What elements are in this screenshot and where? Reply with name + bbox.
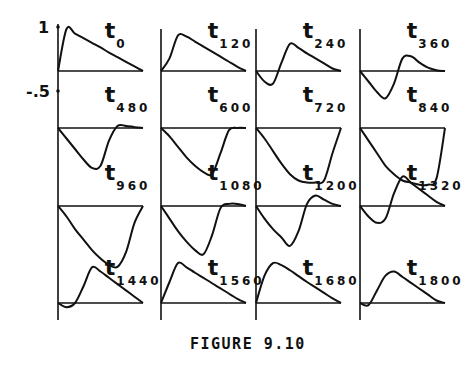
time-subscript: 1560 bbox=[219, 274, 264, 288]
time-subscript: 1680 bbox=[314, 274, 359, 288]
time-symbol: t bbox=[407, 18, 418, 43]
time-symbol: t bbox=[303, 255, 314, 280]
time-symbol: t bbox=[303, 18, 314, 43]
time-subscript: 1440 bbox=[116, 274, 161, 288]
time-symbol: t bbox=[303, 160, 314, 185]
panel-time-label: t240 bbox=[303, 18, 348, 43]
time-subscript: 960 bbox=[116, 179, 150, 193]
panel-time-label: t1440 bbox=[105, 255, 161, 280]
panel-time-label: t360 bbox=[407, 18, 452, 43]
y-tick-label-mid: -.5 bbox=[26, 82, 50, 101]
time-subscript: 720 bbox=[314, 101, 348, 115]
time-subscript: 120 bbox=[219, 37, 253, 51]
time-symbol: t bbox=[105, 18, 116, 43]
time-subscript: 1800 bbox=[418, 274, 463, 288]
panel-time-label: t1800 bbox=[407, 255, 463, 280]
time-subscript: 360 bbox=[418, 37, 452, 51]
panel-time-label: t840 bbox=[407, 82, 452, 107]
time-subscript: 1200 bbox=[314, 179, 359, 193]
figure-caption: FIGURE 9.10 bbox=[190, 335, 306, 353]
time-symbol: t bbox=[208, 82, 219, 107]
time-symbol: t bbox=[303, 82, 314, 107]
time-symbol: t bbox=[105, 82, 116, 107]
panel-time-label: t960 bbox=[105, 160, 150, 185]
time-subscript: 1320 bbox=[418, 179, 463, 193]
y-tick-label-top: 1 bbox=[38, 18, 49, 37]
time-symbol: t bbox=[407, 255, 418, 280]
time-symbol: t bbox=[407, 82, 418, 107]
panel-time-label: t720 bbox=[303, 82, 348, 107]
time-symbol: t bbox=[407, 160, 418, 185]
time-symbol: t bbox=[105, 160, 116, 185]
time-symbol: t bbox=[208, 255, 219, 280]
panel-time-label: t120 bbox=[208, 18, 253, 43]
time-symbol: t bbox=[208, 18, 219, 43]
panel-time-label: t0 bbox=[105, 18, 127, 43]
waveform-curve-t1080 bbox=[161, 203, 246, 255]
panel-time-label: t480 bbox=[105, 82, 150, 107]
panel-time-label: t600 bbox=[208, 82, 253, 107]
time-symbol: t bbox=[105, 255, 116, 280]
panel-time-label: t1320 bbox=[407, 160, 463, 185]
panel-time-label: t1680 bbox=[303, 255, 359, 280]
y-tick-mark bbox=[56, 25, 60, 29]
time-subscript: 240 bbox=[314, 37, 348, 51]
time-subscript: 0 bbox=[116, 37, 127, 51]
panel-time-label: t1200 bbox=[303, 160, 359, 185]
time-subscript: 840 bbox=[418, 101, 452, 115]
panel-time-label: t1080 bbox=[208, 160, 264, 185]
time-subscript: 1080 bbox=[219, 179, 264, 193]
waveform-curve-t1200 bbox=[256, 195, 341, 246]
time-subscript: 480 bbox=[116, 101, 150, 115]
waveform-curve-t0 bbox=[58, 27, 143, 71]
panel-time-label: t1560 bbox=[208, 255, 264, 280]
y-tick-mark bbox=[56, 89, 60, 93]
time-subscript: 600 bbox=[219, 101, 253, 115]
time-symbol: t bbox=[208, 160, 219, 185]
